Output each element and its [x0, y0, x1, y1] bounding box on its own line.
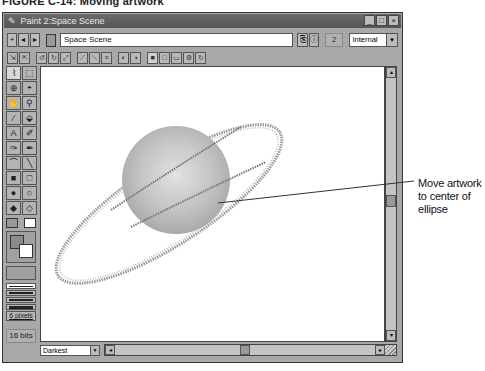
gradient-start-swatch[interactable]	[6, 218, 18, 228]
invert-button[interactable]: ↻	[48, 52, 59, 64]
scroll-left-button[interactable]: ◂	[105, 345, 115, 355]
magnifier-tool[interactable]: ⚲	[22, 96, 37, 110]
darken-button[interactable]: ⟋	[77, 52, 88, 64]
line-width-3[interactable]	[6, 297, 36, 303]
callout-line-3: ellipse	[418, 203, 482, 216]
script-button[interactable]: ⎘	[297, 33, 307, 47]
scroll-up-button[interactable]: ▴	[386, 67, 396, 78]
pattern-chip[interactable]	[6, 266, 36, 280]
rotate-button[interactable]: ◑	[130, 52, 141, 64]
info-button[interactable]: ⓘ	[309, 33, 319, 47]
auto-distort-button[interactable]: ⚙	[183, 52, 194, 64]
background-color-chip[interactable]	[19, 244, 33, 258]
filled-polygon-tool[interactable]: ◆	[6, 201, 21, 215]
minimize-button[interactable]: _	[364, 15, 375, 26]
filled-ellipse-tool[interactable]: ●	[6, 186, 21, 200]
smooth-button[interactable]: ≡	[101, 52, 112, 64]
maximize-button[interactable]: □	[376, 15, 387, 26]
ellipse-tool[interactable]: ○	[22, 186, 37, 200]
air-brush-tool[interactable]: ✑	[6, 141, 21, 155]
line-width-other[interactable]: 6 pixels	[6, 311, 36, 321]
paint-canvas[interactable]	[40, 66, 385, 342]
callout-annotation: Move artwork to center of ellipse	[418, 177, 482, 216]
color-depth: 16 bits	[6, 329, 36, 343]
ink-select[interactable]: Darkest ▼	[40, 345, 100, 356]
callout-line-1: Move artwork	[418, 177, 482, 190]
horizontal-scrollbar[interactable]: ◂ ▸	[104, 344, 397, 356]
planet-shape	[122, 126, 230, 234]
filled-rectangle-tool[interactable]: ■	[6, 171, 21, 185]
figure-caption: FIGURE C-14: Moving artwork	[2, 0, 164, 7]
chevron-down-icon[interactable]: ▼	[386, 34, 397, 46]
cast-select[interactable]: Internal ▼	[349, 33, 398, 47]
hand-tool[interactable]: ✋	[6, 96, 21, 110]
previous-member-button[interactable]: ◂	[18, 33, 28, 47]
color-chips	[6, 231, 36, 263]
warp-button[interactable]: □	[159, 52, 170, 64]
trace-edges-button[interactable]: ↺	[36, 52, 47, 64]
lighten-button[interactable]: ⤢	[60, 52, 71, 64]
cast-select-value: Internal	[352, 35, 377, 44]
add-member-button[interactable]: +	[7, 33, 17, 47]
pencil-icon: ✎	[8, 16, 16, 26]
scroll-right-button[interactable]: ▸	[375, 345, 385, 355]
space-artwork	[41, 67, 385, 342]
flip-horizontal-button[interactable]: ⇲	[7, 52, 18, 64]
effects-toolbar: ⇲ ⇱ ↺ ↻ ⤢ ⟋ ⟍ ≡ ◐ ◑ ■ □ ▭ ⚙ ↻	[7, 51, 398, 65]
ink-mask-button[interactable]: ■	[147, 52, 158, 64]
perspective-button[interactable]: ▭	[171, 52, 182, 64]
arc-tool[interactable]: ⌒	[6, 156, 21, 170]
member-number: 2	[325, 33, 344, 47]
pencil-tool[interactable]: ✐	[22, 126, 37, 140]
drag-member-icon[interactable]	[46, 34, 56, 47]
scroll-down-button[interactable]: ▾	[386, 330, 396, 341]
brush-tool[interactable]: ✒	[22, 141, 37, 155]
rotate-free-button[interactable]: ↻	[195, 52, 206, 64]
registration-point-tool[interactable]: ⊕	[6, 81, 21, 95]
line-width-2[interactable]	[6, 290, 36, 296]
callout-line-2: to center of	[418, 190, 482, 203]
close-button[interactable]: ×	[388, 15, 399, 26]
resize-grip-icon[interactable]	[385, 345, 396, 355]
member-name-input[interactable]: Space Scene	[60, 33, 293, 47]
line-width-4[interactable]	[6, 304, 36, 310]
text-tool[interactable]: A	[6, 126, 21, 140]
flip-vertical-button[interactable]: ⇱	[19, 52, 30, 64]
tool-palette: ⌇ ⬚ ⊕ ◓ ✋ ⚲ ⁄ ⬙ A ✐ ✑ ✒ ⌒ ╲ ■ □ ● ○ ◆ ◇ …	[6, 66, 38, 362]
document-toolbar: + ◂ ▸ Space Scene ⎘ ⓘ 2 Internal ▼	[7, 31, 398, 49]
horizontal-scroll-thumb[interactable]	[240, 345, 250, 355]
title-bar[interactable]: ✎ Paint 2:Space Scene _ □ ×	[4, 14, 401, 28]
bottom-bar: Darkest ▼ ◂ ▸	[40, 344, 397, 356]
chevron-down-icon[interactable]: ▼	[90, 346, 99, 355]
ink-select-value: Darkest	[43, 347, 67, 354]
next-member-button[interactable]: ▸	[30, 33, 40, 47]
rectangle-tool[interactable]: □	[22, 171, 37, 185]
eyedropper-tool[interactable]: ⁄	[6, 111, 21, 125]
line-width-1[interactable]	[6, 283, 36, 289]
marquee-tool[interactable]: ⬚	[22, 66, 37, 80]
line-width-selector: 6 pixels	[6, 283, 36, 321]
paint-bucket-tool[interactable]: ⬙	[22, 111, 37, 125]
polygon-tool[interactable]: ◇	[22, 201, 37, 215]
vertical-scrollbar[interactable]: ▴ ▾	[385, 66, 397, 342]
fill-button[interactable]: ⟍	[89, 52, 100, 64]
window-title: Paint 2:Space Scene	[21, 16, 105, 26]
eraser-tool[interactable]: ◓	[22, 81, 37, 95]
vertical-scroll-thumb[interactable]	[386, 195, 396, 207]
switch-colors-button[interactable]: ◐	[118, 52, 129, 64]
gradient-end-swatch[interactable]	[24, 218, 36, 228]
line-tool[interactable]: ╲	[22, 156, 37, 170]
lasso-tool[interactable]: ⌇	[6, 66, 21, 80]
